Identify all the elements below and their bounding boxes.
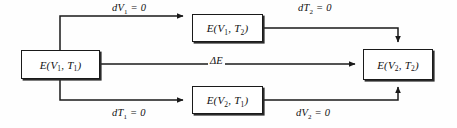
state-node-v1-t2: E(V1, T2) [192,14,263,42]
edge-path-top-left [60,16,183,50]
state-node-v1-t1-label: E(V1, T1) [40,59,82,71]
state-node-v1-t1: E(V1, T1) [21,50,100,79]
thermodynamic-path-diagram: E(V1, T1) E(V1, T2) E(V2, T1) E(V2, T2) … [0,0,457,128]
edge-path-bottom-left [60,79,183,100]
edge-path-top-right [263,28,398,42]
edge-label-delta-e: ΔE [208,55,225,66]
state-node-v2-t2-label: E(V2, T2) [377,59,419,71]
edge-label-dv2-zero: dV2 = 0 [294,107,332,118]
edge-label-dt2-zero: dT2 = 0 [296,2,334,13]
edge-path-bottom-right [263,87,398,100]
state-node-v2-t1: E(V2, T1) [192,86,263,114]
state-node-v2-t2: E(V2, T2) [363,49,433,80]
state-node-v1-t2-label: E(V1, T2) [207,22,249,34]
edge-label-dt1-zero: dT1 = 0 [110,107,148,118]
state-node-v2-t1-label: E(V2, T1) [207,94,249,106]
edge-label-dv1-zero: dV1 = 0 [110,2,148,13]
